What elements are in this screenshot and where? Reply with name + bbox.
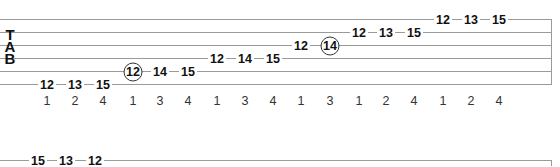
finger-number: 4: [411, 94, 418, 108]
finger-number: 1: [440, 94, 447, 108]
finger-number: 3: [327, 94, 334, 108]
circled-fret-number: 14: [321, 36, 340, 55]
finger-number: 4: [496, 94, 503, 108]
clef-letter-b: B: [4, 53, 16, 65]
string-line-3: [0, 45, 551, 46]
barline-stub: [551, 160, 552, 166]
end-barline: [551, 19, 552, 85]
finger-number: 3: [242, 94, 249, 108]
finger-number: 1: [298, 94, 305, 108]
fret-number: 14: [236, 53, 254, 65]
fret-number: 13: [462, 14, 480, 26]
finger-number: 4: [270, 94, 277, 108]
finger-number: 1: [214, 94, 221, 108]
fret-number: 12: [350, 27, 368, 39]
fret-number: 12: [38, 79, 56, 91]
fret-number: 12: [292, 40, 310, 52]
fret-number: 15: [490, 14, 508, 26]
fret-number: 13: [57, 155, 75, 167]
finger-number: 2: [383, 94, 390, 108]
string-line-5: [0, 71, 551, 72]
fret-number: 13: [66, 79, 84, 91]
fret-number: 15: [264, 53, 282, 65]
fret-number: 12: [86, 155, 104, 167]
finger-number: 1: [356, 94, 363, 108]
fret-number: 15: [94, 79, 112, 91]
finger-number: 2: [72, 94, 79, 108]
finger-number: 3: [157, 94, 164, 108]
fret-number: 12: [208, 53, 226, 65]
string-line-2: [0, 32, 551, 33]
finger-number: 1: [130, 94, 137, 108]
string-line-1: [0, 160, 551, 161]
fret-number: 12: [434, 14, 452, 26]
finger-number: 4: [185, 94, 192, 108]
fret-number: 15: [29, 155, 47, 167]
finger-number: 1: [44, 94, 51, 108]
fret-number: 15: [405, 27, 423, 39]
tab-clef: T A B: [4, 29, 16, 65]
finger-number: 2: [468, 94, 475, 108]
fret-number: 14: [151, 66, 169, 78]
circled-fret-number: 12: [124, 62, 143, 81]
finger-number: 4: [100, 94, 107, 108]
fret-number: 15: [179, 66, 197, 78]
fret-number: 13: [377, 27, 395, 39]
